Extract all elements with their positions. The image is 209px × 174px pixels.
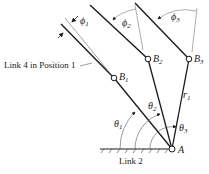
reference-line (192, 8, 197, 52)
linkage-diagram: Link 4 in Position 1 Link 2 A r1 B1 B2 B… (0, 0, 209, 174)
b2-label: B2 (153, 53, 163, 66)
r1-label: r1 (183, 89, 190, 102)
pin-a (169, 146, 175, 152)
phi1-label: ϕ1 (80, 15, 89, 28)
ground-link (100, 149, 169, 153)
theta2-label: θ2 (148, 100, 157, 113)
b1-label: B1 (119, 71, 129, 84)
pin-b1 (111, 75, 117, 81)
reference-line (135, 5, 143, 50)
b3-label: B3 (194, 53, 204, 66)
phi3-label: ϕ3 (171, 11, 180, 24)
link2-label: Link 2 (119, 156, 143, 166)
phi1-arrow (58, 33, 63, 38)
phi1-arrow (72, 16, 78, 22)
pin-b2 (145, 56, 151, 62)
link4-label: Link 4 in Position 1 (4, 60, 76, 70)
theta1-label: θ1 (114, 118, 122, 131)
theta3-label: θ3 (179, 122, 188, 135)
phi2-label: ϕ2 (122, 17, 131, 30)
pin-b3 (186, 56, 192, 62)
a-label: A (177, 144, 185, 155)
label-leader (80, 63, 92, 66)
